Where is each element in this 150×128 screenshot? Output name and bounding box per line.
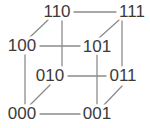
vertex-label-010: 010	[35, 67, 65, 84]
vertex-label-011: 011	[108, 67, 137, 84]
binary-cube-diagram: 110 111 100 101 010 011 000 001	[0, 0, 150, 128]
vertex-label-000: 000	[7, 105, 37, 122]
vertex-label-001: 001	[82, 105, 112, 122]
edge-101-111	[99, 20, 119, 38]
vertex-label-100: 100	[7, 37, 37, 54]
vertex-label-110: 110	[42, 3, 71, 20]
vertex-label-101: 101	[82, 38, 112, 55]
vertex-label-111: 111	[118, 3, 146, 20]
